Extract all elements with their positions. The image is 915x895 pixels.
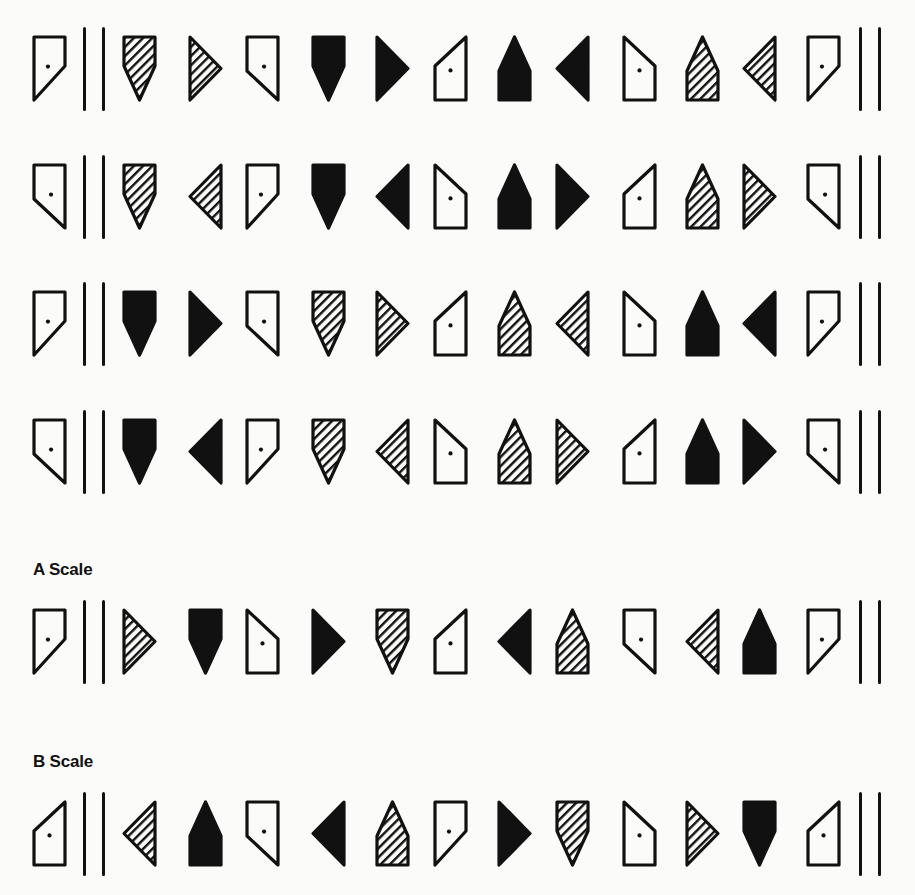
hatched-tri-left-icon	[188, 163, 222, 231]
a-scale	[0, 608, 915, 698]
double-bar-icon	[859, 282, 883, 366]
hatched-house-up-icon	[685, 35, 719, 103]
open-cut-tl-icon	[433, 35, 467, 103]
solid-tri-right-icon	[742, 418, 776, 486]
open-cut-bl-icon	[622, 608, 656, 676]
open-cut-tr-icon	[245, 608, 279, 676]
open-cut-bl-icon	[806, 418, 840, 486]
solid-house-up-icon	[497, 35, 531, 103]
row-1	[0, 35, 915, 125]
open-cut-bl-icon	[32, 163, 66, 231]
solid-shield-down-icon	[188, 608, 222, 676]
open-cut-tl-icon	[433, 608, 467, 676]
open-cut-tl-icon	[622, 163, 656, 231]
solid-tri-left-icon	[311, 800, 345, 868]
solid-house-up-icon	[685, 290, 719, 358]
hatched-house-up-icon	[375, 800, 409, 868]
hatched-tri-left-icon	[555, 290, 589, 358]
double-bar-icon	[859, 410, 883, 494]
hatched-shield-down-icon	[122, 163, 156, 231]
solid-house-up-icon	[497, 163, 531, 231]
row-4	[0, 418, 915, 508]
double-bar-icon	[859, 155, 883, 239]
solid-tri-right-icon	[497, 800, 531, 868]
hatched-house-up-icon	[685, 163, 719, 231]
hatched-house-up-icon	[497, 418, 531, 486]
open-cut-br-icon	[245, 418, 279, 486]
solid-shield-down-icon	[122, 418, 156, 486]
open-cut-tr-icon	[622, 35, 656, 103]
solid-tri-right-icon	[375, 35, 409, 103]
hatched-shield-down-icon	[375, 608, 409, 676]
hatched-tri-right-icon	[188, 35, 222, 103]
open-cut-br-icon	[32, 290, 66, 358]
hatched-house-up-icon	[555, 608, 589, 676]
double-bar-icon	[83, 600, 107, 684]
a-scale-label: A Scale	[33, 560, 92, 580]
hatched-tri-left-icon	[375, 418, 409, 486]
hatched-shield-down-icon	[555, 800, 589, 868]
solid-house-up-icon	[188, 800, 222, 868]
open-cut-tl-icon	[622, 418, 656, 486]
open-cut-br-icon	[32, 608, 66, 676]
open-cut-br-icon	[806, 35, 840, 103]
open-cut-tr-icon	[622, 800, 656, 868]
double-bar-icon	[83, 282, 107, 366]
hatched-tri-right-icon	[685, 800, 719, 868]
solid-shield-down-icon	[122, 290, 156, 358]
solid-house-up-icon	[685, 418, 719, 486]
hatched-tri-right-icon	[742, 163, 776, 231]
hatched-tri-left-icon	[742, 35, 776, 103]
solid-tri-left-icon	[188, 418, 222, 486]
hatched-shield-down-icon	[311, 418, 345, 486]
open-cut-bl-icon	[245, 290, 279, 358]
double-bar-icon	[859, 600, 883, 684]
solid-tri-left-icon	[497, 608, 531, 676]
row-3	[0, 290, 915, 380]
hatched-tri-right-icon	[122, 608, 156, 676]
open-cut-br-icon	[32, 35, 66, 103]
solid-shield-down-icon	[311, 35, 345, 103]
double-bar-icon	[83, 410, 107, 494]
double-bar-icon	[83, 27, 107, 111]
double-bar-icon	[859, 792, 883, 876]
hatched-house-up-icon	[497, 290, 531, 358]
double-bar-icon	[83, 155, 107, 239]
solid-tri-right-icon	[188, 290, 222, 358]
hatched-shield-down-icon	[122, 35, 156, 103]
open-cut-tl-icon	[433, 290, 467, 358]
hatched-tri-left-icon	[122, 800, 156, 868]
solid-tri-left-icon	[375, 163, 409, 231]
open-cut-br-icon	[245, 163, 279, 231]
row-2	[0, 163, 915, 253]
solid-tri-right-icon	[311, 608, 345, 676]
open-cut-bl-icon	[32, 418, 66, 486]
solid-house-up-icon	[742, 608, 776, 676]
solid-tri-right-icon	[555, 163, 589, 231]
solid-tri-left-icon	[555, 35, 589, 103]
open-cut-br-icon	[433, 800, 467, 868]
double-bar-icon	[859, 27, 883, 111]
open-cut-bl-icon	[245, 800, 279, 868]
open-cut-tr-icon	[433, 163, 467, 231]
hatched-tri-right-icon	[555, 418, 589, 486]
open-cut-br-icon	[806, 608, 840, 676]
hatched-shield-down-icon	[311, 290, 345, 358]
open-cut-br-icon	[806, 290, 840, 358]
open-cut-bl-icon	[806, 163, 840, 231]
b-scale-label: B Scale	[33, 752, 93, 772]
open-cut-tl-icon	[32, 800, 66, 868]
hatched-tri-left-icon	[685, 608, 719, 676]
double-bar-icon	[83, 792, 107, 876]
open-cut-tr-icon	[622, 290, 656, 358]
solid-shield-down-icon	[742, 800, 776, 868]
solid-shield-down-icon	[311, 163, 345, 231]
solid-tri-left-icon	[742, 290, 776, 358]
open-cut-tr-icon	[433, 418, 467, 486]
open-cut-tl-icon	[806, 800, 840, 868]
hatched-tri-right-icon	[375, 290, 409, 358]
b-scale	[0, 800, 915, 890]
open-cut-bl-icon	[245, 35, 279, 103]
